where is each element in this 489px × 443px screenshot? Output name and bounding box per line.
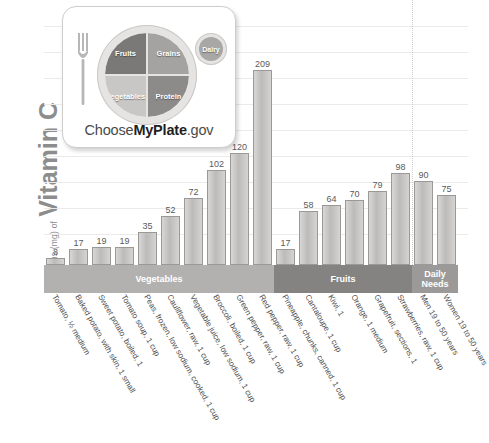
bar-value-label: 75 <box>441 184 451 194</box>
dairy-label: Dairy <box>199 37 223 61</box>
wordmark-choose: Choose <box>85 122 134 138</box>
bar-value-label: 98 <box>395 162 405 172</box>
x-axis-label: Grapefruit, sections, 1 <box>372 293 419 365</box>
bar[interactable] <box>299 211 318 265</box>
category-band-vegetables: Vegetables <box>44 265 274 293</box>
bar-value-label: 19 <box>119 236 129 246</box>
bar[interactable] <box>437 195 456 265</box>
bar-value-label: 17 <box>73 238 83 248</box>
bar[interactable] <box>161 216 180 265</box>
bar-slot[interactable]: 209 <box>251 0 274 265</box>
bar[interactable] <box>92 247 111 265</box>
category-bands: VegetablesFruitsDailyNeeds <box>44 265 468 293</box>
bar[interactable] <box>345 200 364 265</box>
bar[interactable] <box>253 70 272 265</box>
bar-value-label: 79 <box>372 180 382 190</box>
x-axis-labels: Tomato, ½ mediumBaked potato, with skin,… <box>44 293 468 443</box>
bar[interactable] <box>391 173 410 265</box>
bar-slot[interactable]: 64 <box>320 0 343 265</box>
x-axis-label: Cauliflower, raw, 1 cup <box>165 293 213 367</box>
category-band-label: Fruits <box>330 274 355 284</box>
bar-value-label: 19 <box>96 236 106 246</box>
wordmark-gov: .gov <box>187 122 214 138</box>
bar[interactable] <box>276 249 295 265</box>
bar-value-label: 70 <box>349 189 359 199</box>
bar-value-label: 8 <box>53 247 58 257</box>
bar-value-label: 52 <box>165 205 175 215</box>
y-axis-title: Milligrams (mg) of Vitamin C <box>0 0 44 300</box>
bar-value-label: 90 <box>418 170 428 180</box>
plate-section-grains: Grains <box>148 33 189 74</box>
bar-slot[interactable]: 75 <box>435 0 458 265</box>
dairy-circle: Dairy <box>195 33 227 65</box>
bar-value-label: 120 <box>232 142 247 152</box>
plate-section-vegetables: Vegetables <box>105 76 146 117</box>
myplate-wordmark: ChooseMyPlate.gov <box>63 122 235 138</box>
bar-slot[interactable]: 90 <box>412 0 435 265</box>
plate-section-protein: Protein <box>148 76 189 117</box>
x-axis-label: Women 19 to 50 years <box>441 293 489 367</box>
plate-graphic: Fruits Grains Vegetables Protein <box>97 25 197 125</box>
bar[interactable] <box>69 249 88 265</box>
bar-slot[interactable]: 79 <box>366 0 389 265</box>
bar-value-label: 58 <box>303 200 313 210</box>
bar[interactable] <box>230 153 249 265</box>
x-axis-label: Broccoli, boiled, 1 cup <box>211 293 258 365</box>
bar[interactable] <box>184 198 203 265</box>
bar[interactable] <box>322 205 341 265</box>
bar-slot[interactable]: 70 <box>343 0 366 265</box>
bar-value-label: 64 <box>326 194 336 204</box>
category-band-label: Needs <box>421 279 448 289</box>
bar-slot[interactable]: 98 <box>389 0 412 265</box>
bar-slot[interactable]: 17 <box>274 0 297 265</box>
myplate-logo: Fruits Grains Vegetables Protein Dairy C… <box>62 6 236 148</box>
bar-value-label: 102 <box>209 159 224 169</box>
wordmark-myplate: MyPlate <box>133 122 186 138</box>
plate-section-fruits: Fruits <box>105 33 146 74</box>
bar-value-label: 35 <box>142 221 152 231</box>
bar[interactable] <box>138 232 157 265</box>
fork-icon <box>77 33 89 105</box>
bar-value-label: 72 <box>188 187 198 197</box>
category-band-daily-needs: DailyNeeds <box>412 265 458 293</box>
bar[interactable] <box>368 191 387 265</box>
bar-value-label: 209 <box>255 59 270 69</box>
category-band-fruits: Fruits <box>274 265 412 293</box>
category-band-label: Vegetables <box>135 274 182 284</box>
category-band-label: Daily <box>424 269 446 279</box>
bar[interactable] <box>207 170 226 265</box>
bar[interactable] <box>115 247 134 265</box>
bar-value-label: 17 <box>280 238 290 248</box>
bar[interactable] <box>46 258 65 265</box>
bar[interactable] <box>414 181 433 265</box>
x-axis-label: Kiwi, 1 <box>326 293 346 318</box>
bar-slot[interactable]: 58 <box>297 0 320 265</box>
